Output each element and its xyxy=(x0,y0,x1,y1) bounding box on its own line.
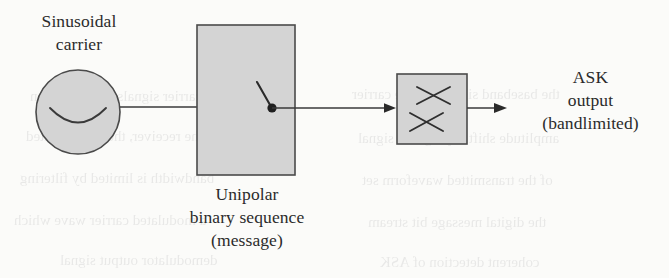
output-label-line1: ASK xyxy=(512,66,669,89)
multiplier-to-output-wire xyxy=(467,103,507,113)
sinusoidal-carrier-label: Sinusoidal carrier xyxy=(0,10,158,56)
unipolar-binary-sequence-switch xyxy=(197,25,295,175)
ask-output-label: ASK output (bandlimited) xyxy=(512,66,669,134)
oscillator-circle xyxy=(36,70,120,154)
message-label-line3: (message) xyxy=(142,229,352,252)
arrowhead-into-multiplier-icon xyxy=(384,103,396,113)
output-label-line3: (bandlimited) xyxy=(512,112,669,135)
message-label-line2: binary sequence xyxy=(142,206,352,229)
sinusoidal-carrier-oscillator xyxy=(36,70,120,154)
carrier-label-line2: carrier xyxy=(0,33,158,56)
switch-block-rect xyxy=(197,25,295,175)
message-label-line1: Unipolar xyxy=(142,183,352,206)
ask-modulator-figure: of subcarrier signals in modulationthe b… xyxy=(0,0,669,278)
multiplier-rect xyxy=(397,74,467,144)
output-label-line2: output xyxy=(512,89,669,112)
multiplier xyxy=(397,74,467,144)
arrowhead-output-icon xyxy=(494,103,507,113)
unipolar-binary-sequence-label: Unipolar binary sequence (message) xyxy=(142,183,352,251)
carrier-label-line1: Sinusoidal xyxy=(0,10,158,33)
